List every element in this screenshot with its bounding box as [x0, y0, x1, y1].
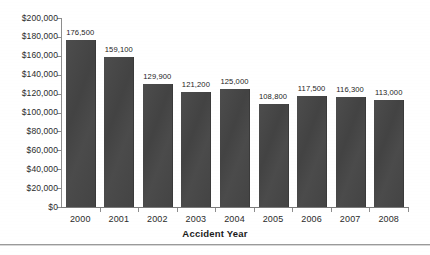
x-axis-category-label: 2000	[61, 214, 100, 224]
x-axis-category-label: 2001	[100, 214, 139, 224]
x-axis-category-label: 2003	[177, 214, 216, 224]
bar	[181, 92, 211, 207]
x-axis-category-label: 2005	[254, 214, 293, 224]
bar-value-label: 176,500	[59, 29, 102, 37]
bar-value-label: 116,300	[329, 86, 372, 94]
x-axis-tick	[408, 208, 409, 212]
x-axis-category-label: 2004	[215, 214, 254, 224]
y-axis-tick-label: $180,000	[22, 32, 58, 41]
y-axis-tick-label: $100,000	[22, 108, 58, 117]
x-axis-tick	[100, 208, 101, 212]
bar	[143, 84, 173, 207]
bar	[220, 89, 250, 207]
y-axis-tick-label: $40,000	[27, 165, 58, 174]
x-axis-category-label: 2008	[369, 214, 408, 224]
x-axis-tick	[254, 208, 255, 212]
x-axis-category-label: 2007	[331, 214, 370, 224]
bar	[66, 40, 96, 207]
y-axis-tick-label: $140,000	[22, 70, 58, 79]
y-axis-tick-label: $60,000	[27, 146, 58, 155]
y-axis-tick-label: $0	[48, 203, 58, 212]
y-axis-tick-label: $20,000	[27, 184, 58, 193]
bar	[104, 57, 134, 207]
y-axis-tick-label: $120,000	[22, 89, 58, 98]
bar	[336, 97, 366, 207]
bar-value-label: 125,000	[213, 78, 256, 86]
bar-value-label: 108,800	[252, 93, 295, 101]
bar-chart: $0$20,000$40,000$60,000$80,000$100,000$1…	[0, 0, 430, 255]
bar-value-label: 117,500	[290, 85, 333, 93]
bar	[297, 96, 327, 207]
x-axis-tick	[369, 208, 370, 212]
y-axis-tick-label: $80,000	[27, 127, 58, 136]
x-axis-tick	[331, 208, 332, 212]
x-axis-category-label: 2006	[292, 214, 331, 224]
bar	[374, 100, 404, 207]
bar-value-label: 129,900	[136, 73, 179, 81]
y-axis-tick-label: $160,000	[22, 51, 58, 60]
bar	[259, 104, 289, 207]
x-axis-tick	[215, 208, 216, 212]
x-axis-line	[61, 207, 409, 208]
bar-value-label: 113,000	[367, 89, 410, 97]
bar-value-label: 121,200	[174, 81, 217, 89]
x-axis-tick	[177, 208, 178, 212]
x-axis-title: Accident Year	[0, 228, 430, 239]
bar-value-label: 159,100	[97, 46, 140, 54]
x-axis-category-label: 2002	[138, 214, 177, 224]
x-axis-tick	[138, 208, 139, 212]
bottom-divider-shadow	[0, 245, 430, 246]
y-axis-tick-label: $200,000	[22, 14, 58, 23]
x-axis-tick	[292, 208, 293, 212]
